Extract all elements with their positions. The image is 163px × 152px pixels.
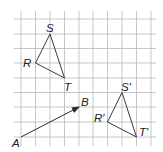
label-r: R (23, 57, 31, 69)
label-a: A (11, 137, 20, 149)
label-b: B (81, 96, 89, 108)
label-s: S (46, 22, 54, 34)
square-grid (14, 11, 156, 146)
label-t-prime: T′ (139, 126, 149, 138)
label-t: T (64, 81, 72, 93)
label-s-prime: S′ (121, 81, 132, 93)
translation-diagram: A B R S T R′ S′ T′ (0, 0, 163, 152)
label-r-prime: R′ (94, 112, 105, 124)
